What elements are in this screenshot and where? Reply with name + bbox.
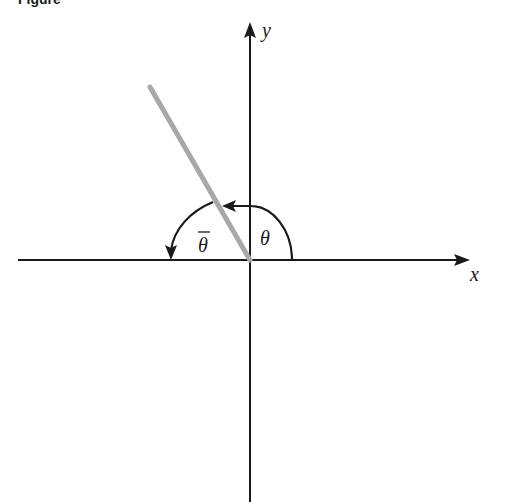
x-axis-label: x [469, 263, 479, 285]
theta-bar-arc: θ [165, 202, 213, 260]
y-axis-label: y [260, 19, 271, 42]
theta-bar-label: θ [198, 234, 208, 256]
theta-label: θ [260, 227, 270, 249]
angle-diagram: Figure x y θ θ [0, 0, 516, 502]
figure-caption: Figure [18, 0, 61, 7]
caption-text: Figure [18, 0, 61, 7]
